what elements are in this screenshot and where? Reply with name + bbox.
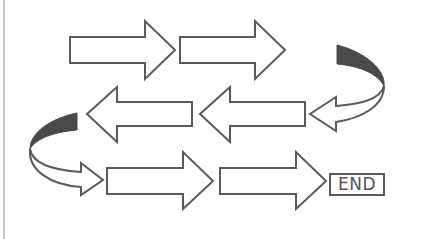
flow-diagram	[0, 0, 421, 239]
arrow-left-row2-1	[87, 87, 192, 142]
curved-arrow-left	[30, 113, 103, 195]
arrow-right-row3-1	[107, 152, 213, 209]
arrow-right-row1-2	[180, 21, 285, 79]
curved-arrow-right	[310, 45, 384, 131]
arrow-right-row3-2	[220, 152, 326, 209]
arrow-left-row2-2	[200, 87, 305, 142]
arrow-right-row1-1	[70, 21, 175, 79]
end-label: END	[329, 173, 385, 196]
